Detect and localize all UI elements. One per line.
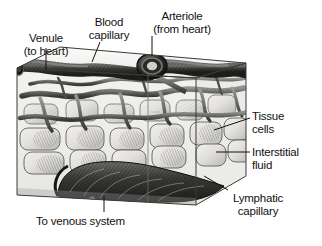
label-tissue-cells-line2: cells <box>252 123 318 136</box>
label-lymphatic-capillary-line2: capillary <box>215 205 301 218</box>
label-venule-line2: (to heart) <box>10 45 82 58</box>
label-blood-capillary-line2: capillary <box>74 29 144 42</box>
label-tissue-cells-line1: Tissue <box>252 110 318 123</box>
label-interstitial-fluid: Interstitial fluid <box>252 146 322 171</box>
label-blood-capillary: Blood capillary <box>74 16 144 41</box>
label-blood-capillary-line1: Blood <box>74 16 144 29</box>
label-arteriole-line2: (from heart) <box>140 23 224 36</box>
label-lymphatic-capillary-line1: Lymphatic <box>215 192 301 205</box>
label-interstitial-fluid-line1: Interstitial <box>252 146 322 159</box>
tissue-block <box>14 47 252 214</box>
label-venous-system-line1: To venous system <box>36 215 160 228</box>
label-arteriole-line1: Arteriole <box>140 10 224 23</box>
label-lymphatic-capillary: Lymphatic capillary <box>215 192 301 217</box>
label-interstitial-fluid-line2: fluid <box>252 159 322 172</box>
label-tissue-cells: Tissue cells <box>252 110 318 135</box>
label-arteriole: Arteriole (from heart) <box>140 10 224 35</box>
label-venous-system: To venous system <box>36 215 160 228</box>
label-venule-line1: Venule <box>10 32 82 45</box>
label-venule: Venule (to heart) <box>10 32 82 57</box>
